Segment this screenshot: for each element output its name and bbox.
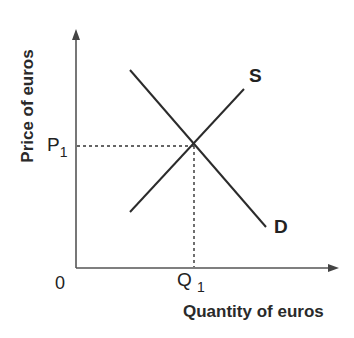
quantity-label-q1: Q 1 (177, 269, 205, 291)
quantity-label-base: Q (177, 269, 192, 290)
origin-label: 0 (55, 273, 65, 294)
quantity-label-sub: 1 (197, 279, 205, 295)
y-axis-label: Price of euros (18, 49, 38, 162)
price-label-sub: 1 (60, 144, 68, 160)
price-label-p1: P1 (47, 134, 67, 156)
demand-curve (130, 70, 266, 227)
supply-curve (130, 89, 244, 212)
supply-label: S (249, 65, 262, 87)
demand-label: D (274, 216, 288, 238)
x-axis-label: Quantity of euros (183, 302, 324, 322)
y-axis-arrow-icon (72, 29, 80, 40)
x-axis-arrow-icon (328, 264, 339, 272)
price-label-base: P (47, 134, 60, 155)
